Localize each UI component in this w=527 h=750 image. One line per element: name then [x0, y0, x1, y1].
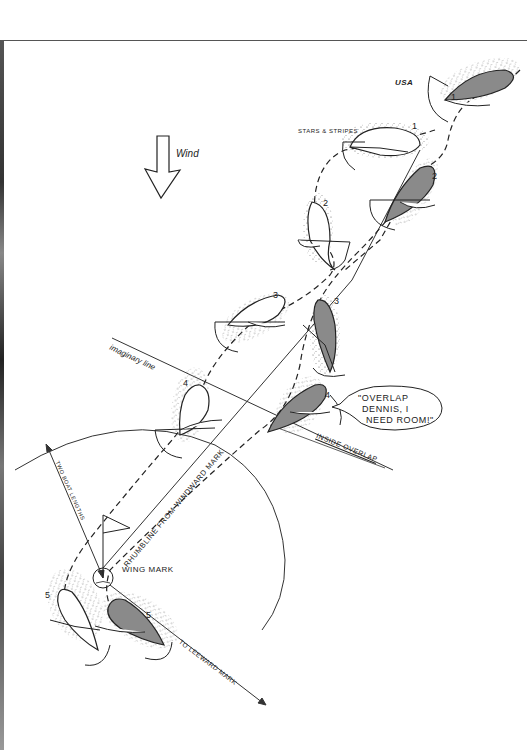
speech-line-3: NEED ROOM!" [358, 415, 434, 426]
position-number-usa-1: 1 [451, 92, 456, 102]
wing-mark-label: WING MARK [122, 565, 174, 574]
position-number-usa-5: 5 [146, 610, 151, 620]
position-number-usa-2: 2 [432, 171, 437, 181]
boat-tracks [64, 70, 520, 620]
position-number-usa-4: 4 [325, 390, 330, 400]
position-number-ss-3: 3 [273, 290, 278, 300]
sailing-diagram [0, 0, 527, 750]
speech-line-1: "OVERLAP [358, 393, 434, 404]
wind-label: Wind [176, 148, 199, 159]
boat-usa-position-4 [265, 367, 341, 442]
boat-stars-stripes-position-3 [213, 283, 297, 352]
boat-usa-position-5 [93, 580, 188, 660]
position-number-ss-1: 1 [412, 121, 417, 131]
boat-usa-position-1 [428, 49, 526, 122]
position-number-ss-4: 4 [183, 378, 188, 388]
stars-stripes-label: STARS & STRIPES [298, 128, 358, 134]
boat-usa-position-3 [303, 295, 345, 376]
wind-arrow-icon [145, 136, 180, 198]
stars-stripes-track [64, 130, 435, 605]
usa-label: USA [395, 78, 413, 87]
boat-usa-position-2 [370, 152, 447, 233]
speech-line-2: DENNIS, I [358, 404, 434, 415]
position-number-usa-3: 3 [334, 296, 339, 306]
position-number-ss-2: 2 [323, 198, 328, 208]
diagram-page: Wind USA STARS & STRIPES 1 1 2 2 3 3 4 4… [0, 0, 527, 750]
position-number-ss-5: 5 [45, 590, 50, 600]
speech-bubble-text: "OVERLAP DENNIS, I NEED ROOM!" [358, 393, 434, 426]
wing-mark-icon [93, 515, 130, 588]
